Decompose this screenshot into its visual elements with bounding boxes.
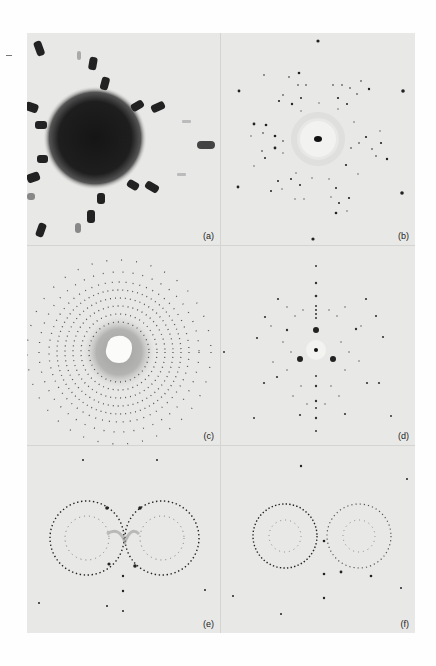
panel-label-e: (e) [203,619,214,629]
diffraction-figure: (a) [27,33,415,633]
panel-label-d: (d) [398,431,409,441]
diffraction-pattern-b-image [221,33,415,245]
panel-f: (f) [221,446,415,633]
panel-d: (d) [221,246,415,445]
panel-b: (b) [221,33,415,245]
panel-label-b: (b) [398,231,409,241]
panel-a: (a) [27,33,220,245]
diffraction-pattern-e-image [27,446,220,633]
diffraction-pattern-f-image [221,446,415,633]
diffraction-pattern-c-image [27,246,220,445]
panel-e: (e) [27,446,220,633]
panel-label-c: (c) [204,431,215,441]
panel-label-a: (a) [203,231,214,241]
margin-mark [6,55,12,56]
panel-c: (c) [27,246,220,445]
diffraction-pattern-d-image [221,246,415,445]
diffraction-pattern-a-image [27,33,220,245]
panel-label-f: (f) [401,619,410,629]
